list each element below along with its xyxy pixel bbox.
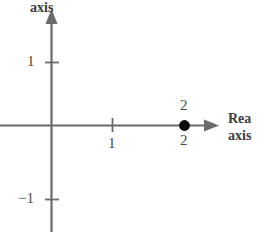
real-axis-arrowhead bbox=[204, 120, 219, 132]
complex-plane-figure: axis Reaaxis 1 −1 1 2 2 bbox=[0, 0, 258, 232]
imaginary-axis-group bbox=[46, 9, 58, 232]
point-label-below: 2 bbox=[180, 133, 188, 148]
plotted-point-marker bbox=[179, 120, 190, 131]
real-axis-label: Reaaxis bbox=[228, 112, 251, 143]
tick-label-real-1: 1 bbox=[108, 136, 116, 151]
real-axis-label-line1: Rea bbox=[228, 111, 251, 126]
real-axis-label-line2: axis bbox=[228, 129, 251, 143]
point-label-above: 2 bbox=[180, 98, 188, 113]
axes-graphic bbox=[0, 0, 258, 232]
tick-label-imaginary-1: 1 bbox=[27, 54, 35, 69]
imaginary-axis-label: axis bbox=[30, 1, 53, 15]
tick-label-imaginary-negative-1: −1 bbox=[18, 191, 34, 206]
